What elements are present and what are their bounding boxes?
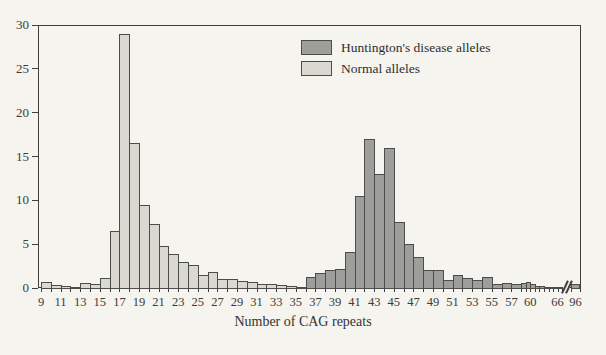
x-tick-label: 11 — [55, 296, 67, 309]
x-tick-label: 15 — [94, 296, 107, 309]
x-tick-label: 41 — [348, 296, 361, 309]
y-tick — [32, 25, 38, 26]
x-tick-label: 9 — [38, 296, 44, 309]
x-tick-label: 23 — [172, 296, 185, 309]
x-tick-label: 45 — [388, 296, 401, 309]
x-tick-label: 57 — [505, 296, 518, 309]
x-axis-title: Number of CAG repeats — [0, 314, 606, 330]
disease-swatch-icon — [301, 40, 332, 55]
legend-label: Normal alleles — [341, 61, 420, 77]
x-tick-label: 31 — [250, 296, 263, 309]
y-tick-label: 30 — [3, 18, 29, 32]
x-tick-label: 27 — [211, 296, 224, 309]
legend-item: Normal alleles — [301, 61, 490, 76]
legend-item: Huntington's disease alleles — [301, 40, 490, 55]
y-tick-label: 10 — [3, 193, 29, 207]
x-tick-label: 43 — [368, 296, 381, 309]
x-tick-label: 53 — [466, 296, 479, 309]
x-tick-label: 29 — [231, 296, 244, 309]
histogram-figure: 051015202530 911131517192123252729313335… — [0, 0, 606, 355]
x-tick-label: 51 — [446, 296, 459, 309]
x-tick-label: 19 — [133, 296, 146, 309]
normal-swatch-icon — [301, 61, 332, 76]
legend: Huntington's disease allelesNormal allel… — [301, 40, 490, 82]
y-tick-label: 5 — [3, 237, 29, 251]
y-tick — [32, 288, 38, 289]
y-tick-label: 15 — [3, 150, 29, 164]
legend-label: Huntington's disease alleles — [341, 40, 490, 56]
x-tick-label: 17 — [113, 296, 126, 309]
x-tick-label: 25 — [192, 296, 205, 309]
x-tick-label: 35 — [290, 296, 303, 309]
y-tick — [32, 68, 38, 69]
y-tick-label: 0 — [3, 281, 29, 295]
y-tick — [32, 112, 38, 113]
x-tick-label: 47 — [407, 296, 420, 309]
x-tick-label: 21 — [152, 296, 165, 309]
x-tick-label: 37 — [309, 296, 322, 309]
x-tick-label: 39 — [329, 296, 342, 309]
y-tick-label: 25 — [3, 62, 29, 76]
x-tick — [580, 288, 581, 292]
x-tick-label: 49 — [427, 296, 440, 309]
y-tick — [32, 200, 38, 201]
y-tick — [32, 244, 38, 245]
x-tick-label: 33 — [270, 296, 283, 309]
x-tick-label: 60 — [524, 296, 537, 309]
y-tick-label: 20 — [3, 106, 29, 120]
x-tick-label: 13 — [74, 296, 87, 309]
x-tick-label: 55 — [486, 296, 499, 309]
x-tick-label: 66 — [551, 296, 564, 309]
x-tick-label: 96 — [569, 296, 582, 309]
histogram-bar — [571, 284, 580, 289]
y-tick — [32, 156, 38, 157]
